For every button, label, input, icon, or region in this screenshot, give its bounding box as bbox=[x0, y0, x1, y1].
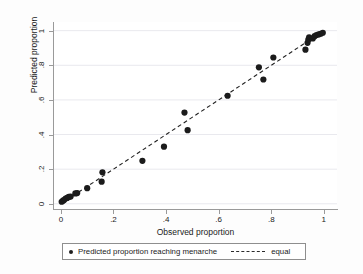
gridlines bbox=[53, 31, 337, 204]
data-point bbox=[260, 76, 266, 82]
dashed-line-icon bbox=[231, 251, 265, 252]
y-tick-mark-0 bbox=[49, 204, 53, 205]
legend-entry-points: Predicted proportion reaching menarche bbox=[69, 247, 217, 256]
data-point bbox=[270, 54, 276, 60]
x-tick-mark-2 bbox=[166, 210, 167, 214]
data-point bbox=[74, 190, 80, 196]
data-point bbox=[139, 158, 145, 164]
y-tick-mark-3 bbox=[49, 100, 53, 101]
y-tick-label-1: .2 bbox=[38, 163, 46, 175]
x-tick-mark-0 bbox=[61, 210, 62, 214]
y-axis-line bbox=[53, 22, 54, 210]
plot-canvas bbox=[53, 22, 337, 209]
data-point bbox=[84, 185, 90, 191]
x-tick-label-0: 0 bbox=[59, 216, 63, 224]
x-tick-mark-5 bbox=[324, 210, 325, 214]
data-point bbox=[302, 47, 308, 53]
x-tick-label-1: .2 bbox=[110, 216, 117, 224]
y-tick-mark-1 bbox=[49, 169, 53, 170]
x-tick-label-2: .4 bbox=[163, 216, 170, 224]
legend-label-points: Predicted proportion reaching menarche bbox=[78, 247, 217, 256]
y-axis-title: Predicted proportion bbox=[29, 0, 39, 135]
y-tick-mark-5 bbox=[49, 31, 53, 32]
y-tick-label-3: .6 bbox=[38, 94, 46, 106]
equal-reference-line bbox=[61, 31, 324, 204]
plot-area bbox=[53, 22, 337, 209]
filled-circle-icon bbox=[69, 250, 73, 254]
data-point bbox=[320, 30, 326, 36]
data-point bbox=[161, 144, 167, 150]
y-tick-label-2: .4 bbox=[38, 129, 46, 141]
y-tick-label-5: 1 bbox=[38, 25, 46, 37]
x-tick-label-4: .8 bbox=[268, 216, 275, 224]
x-tick-mark-4 bbox=[271, 210, 272, 214]
data-point bbox=[99, 169, 105, 175]
y-tick-mark-4 bbox=[49, 65, 53, 66]
legend-entry-equal: equal bbox=[231, 247, 290, 256]
data-point bbox=[99, 179, 105, 185]
data-point bbox=[181, 109, 187, 115]
x-axis-line bbox=[53, 209, 338, 210]
y-tick-mark-2 bbox=[49, 135, 53, 136]
y-tick-label-0: 0 bbox=[38, 198, 46, 210]
legend: Predicted proportion reaching menarche e… bbox=[62, 243, 306, 260]
x-tick-mark-1 bbox=[113, 210, 114, 214]
x-tick-mark-3 bbox=[219, 210, 220, 214]
x-axis-title: Observed proportion bbox=[53, 227, 338, 237]
data-point bbox=[256, 64, 262, 70]
x-tick-label-5: 1 bbox=[322, 216, 326, 224]
x-tick-label-3: .6 bbox=[215, 216, 222, 224]
y-tick-label-4: .8 bbox=[38, 59, 46, 71]
data-point bbox=[185, 127, 191, 133]
legend-label-equal: equal bbox=[271, 247, 290, 256]
chart-figure: 0.2.4.6.81 0.2.4.6.81 Observed proportio… bbox=[0, 0, 363, 274]
data-point bbox=[225, 93, 231, 99]
